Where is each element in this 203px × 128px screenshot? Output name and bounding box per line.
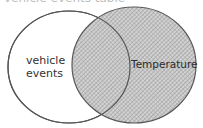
left-set-label-line1: vehicle xyxy=(26,54,65,67)
left-set-label: vehicle events xyxy=(26,54,65,80)
right-set-label: Temperature xyxy=(131,58,198,71)
left-set-label-line2: events xyxy=(26,67,65,80)
